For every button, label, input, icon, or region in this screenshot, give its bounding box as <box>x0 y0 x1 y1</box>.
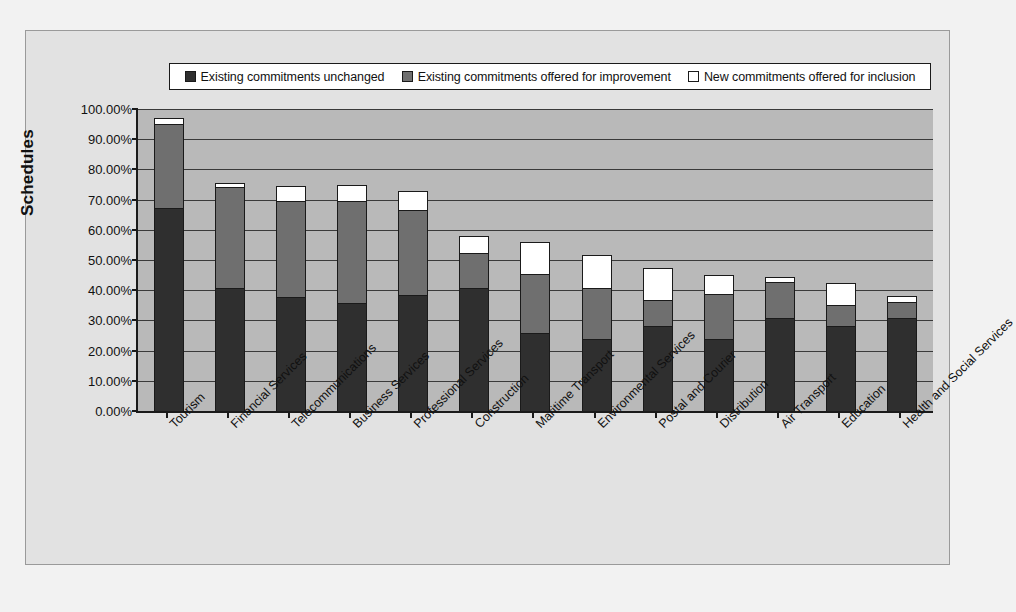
bar-column <box>201 109 259 411</box>
plot-area-wrapper <box>136 109 931 411</box>
legend-entry-improvement: Existing commitments offered for improve… <box>402 70 671 84</box>
x-label-wrapper: Maritime Transport <box>504 419 562 559</box>
legend-entry-new: New commitments offered for inclusion <box>688 70 915 84</box>
bar-segment-offered-for-improvement <box>216 187 244 288</box>
bar-column <box>873 109 931 411</box>
x-label-wrapper: Postal and Courier <box>627 419 685 559</box>
bar-segment-new-commitments <box>644 269 672 300</box>
bar-segment-unchanged <box>888 318 916 411</box>
stacked-bar <box>887 296 917 411</box>
x-label-wrapper: Construction <box>443 419 501 559</box>
x-tick-mark <box>349 411 351 418</box>
stacked-bar <box>765 277 795 411</box>
y-tick-label: 10.00% <box>88 373 132 388</box>
y-tick-label: 60.00% <box>88 222 132 237</box>
bar-segment-offered-for-improvement <box>155 124 183 208</box>
x-label-wrapper: Distribution <box>688 419 746 559</box>
stacked-bar <box>704 275 734 411</box>
stacked-bar <box>154 118 184 411</box>
bar-segment-new-commitments <box>705 276 733 294</box>
x-tick-mark <box>471 411 473 418</box>
bar-column <box>751 109 809 411</box>
bar-segment-offered-for-improvement <box>521 274 549 333</box>
x-tick-mark <box>227 411 229 418</box>
x-label-wrapper: Professional Services <box>382 419 440 559</box>
legend-swatch-new <box>688 71 699 82</box>
x-tick-mark <box>288 411 290 418</box>
bar-segment-new-commitments <box>399 192 427 210</box>
bar-segment-unchanged <box>827 326 855 411</box>
x-tick-mark <box>594 411 596 418</box>
bar-segment-offered-for-improvement <box>644 300 672 325</box>
bar-segment-unchanged <box>155 208 183 411</box>
bar-segment-offered-for-improvement <box>277 201 305 297</box>
x-tick-mark <box>410 411 412 418</box>
legend-swatch-unchanged <box>185 71 196 82</box>
bar-segment-offered-for-improvement <box>583 288 611 339</box>
bar-column <box>506 109 564 411</box>
x-axis-tick-labels: TourismFinancial ServicesTelecommunicati… <box>136 419 931 559</box>
legend-label-improvement: Existing commitments offered for improve… <box>418 70 671 84</box>
legend-entry-unchanged: Existing commitments unchanged <box>185 70 385 84</box>
bar-series-group <box>138 109 933 411</box>
bar-segment-unchanged <box>521 333 549 411</box>
y-tick-label: 90.00% <box>88 132 132 147</box>
y-tick-label: 100.00% <box>81 102 132 117</box>
bar-segment-offered-for-improvement <box>399 210 427 296</box>
bar-segment-offered-for-improvement <box>460 253 488 288</box>
y-tick-label: 70.00% <box>88 192 132 207</box>
chart-figure: Existing commitments unchanged Existing … <box>25 30 950 565</box>
x-label-wrapper: Environmental Services <box>566 419 624 559</box>
x-label-wrapper: Education <box>810 419 868 559</box>
x-tick-mark <box>777 411 779 418</box>
stacked-bar <box>215 183 245 411</box>
bar-column <box>140 109 198 411</box>
y-tick-label: 30.00% <box>88 313 132 328</box>
bar-column <box>812 109 870 411</box>
x-tick-mark <box>166 411 168 418</box>
bar-segment-offered-for-improvement <box>705 294 733 339</box>
y-axis-tick-labels: 100.00%90.00%80.00%70.00%60.00%50.00%40.… <box>62 109 132 411</box>
bar-segment-new-commitments <box>277 187 305 201</box>
y-tick-label: 80.00% <box>88 162 132 177</box>
x-label-wrapper: Tourism <box>138 419 196 559</box>
stacked-bar <box>826 283 856 411</box>
bar-segment-new-commitments <box>460 237 488 254</box>
bar-segment-new-commitments <box>827 284 855 305</box>
bar-segment-offered-for-improvement <box>766 282 794 318</box>
bar-segment-offered-for-improvement <box>888 302 916 318</box>
y-tick-label: 40.00% <box>88 283 132 298</box>
legend-label-new: New commitments offered for inclusion <box>704 70 915 84</box>
y-tick-label: 20.00% <box>88 343 132 358</box>
bar-segment-unchanged <box>216 288 244 411</box>
x-label-wrapper: Telecommunications <box>260 419 318 559</box>
y-tick-label: 0.00% <box>95 404 132 419</box>
x-tick-mark <box>532 411 534 418</box>
bar-segment-offered-for-improvement <box>338 201 366 303</box>
x-tick-mark <box>655 411 657 418</box>
stacked-bar <box>643 268 673 411</box>
bar-segment-new-commitments <box>521 243 549 275</box>
x-label-wrapper: Business Services <box>321 419 379 559</box>
chart-legend: Existing commitments unchanged Existing … <box>169 63 931 90</box>
x-tick-mark <box>716 411 718 418</box>
x-label-wrapper: Financial Services <box>199 419 257 559</box>
x-label-wrapper: Air Transport <box>749 419 807 559</box>
legend-swatch-improvement <box>402 71 413 82</box>
y-tick-label: 50.00% <box>88 253 132 268</box>
y-axis-title: Schedules <box>18 129 38 216</box>
bar-segment-offered-for-improvement <box>827 305 855 326</box>
legend-label-unchanged: Existing commitments unchanged <box>201 70 385 84</box>
x-tick-mark <box>838 411 840 418</box>
x-label-wrapper: Health and Social Services <box>871 419 929 559</box>
x-tick-mark <box>899 411 901 418</box>
bar-segment-unchanged <box>766 318 794 411</box>
bar-segment-new-commitments <box>583 256 611 288</box>
plot-area <box>136 109 933 413</box>
bar-segment-new-commitments <box>338 186 366 201</box>
